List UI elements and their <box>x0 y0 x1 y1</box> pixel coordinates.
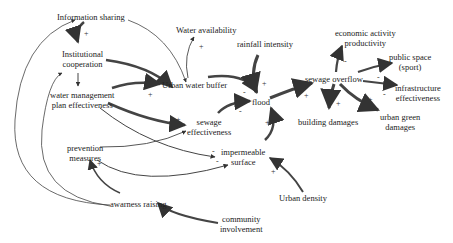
link-uwb-to-wa <box>186 37 194 78</box>
node-flood: flood <box>252 97 270 107</box>
polarity-sign: + <box>271 168 276 176</box>
causal-loop-diagram: Information sharing Institutional cooper… <box>0 0 453 243</box>
node-label: surface <box>221 157 265 167</box>
polarity-sign: + <box>265 119 270 127</box>
polarity-sign: + <box>368 96 373 104</box>
node-label: community <box>220 214 263 224</box>
polarity-sign: - <box>344 58 347 66</box>
link-pm-to-imp <box>97 160 228 176</box>
link-wmp-to-uwb <box>112 83 160 88</box>
link-so-to-eap <box>336 46 342 72</box>
node-label: cooperation <box>62 59 103 69</box>
node-label: Institutional <box>62 49 103 59</box>
link-ar-to-info <box>15 20 110 205</box>
node-label: urban green <box>380 112 420 122</box>
node-public-space-sport: public space (sport) <box>389 52 431 72</box>
node-label: effectiveness <box>187 127 231 137</box>
node-urban-water-buffer: Urban water buffer <box>162 80 227 90</box>
polarity-sign: + <box>336 100 341 108</box>
link-so-to-bd <box>329 84 334 108</box>
node-sewage-effectiveness: sewage effectiveness <box>187 117 231 137</box>
polarity-sign: - <box>212 148 215 156</box>
node-label: rainfall intensity <box>237 39 293 49</box>
node-label: water management <box>50 90 114 100</box>
node-label: Urban density <box>279 193 327 203</box>
polarity-sign: - <box>243 89 246 97</box>
node-infrastructure-effectiveness: infrastructure effectiveness <box>395 83 441 103</box>
node-label: prevention <box>67 143 103 153</box>
node-institutional-cooperation: Institutional cooperation <box>62 49 103 69</box>
node-label: Information sharing <box>57 12 125 22</box>
polarity-sign: - <box>216 158 219 166</box>
node-sewage-overflow: sewage overflow <box>305 74 363 84</box>
node-label: flood <box>252 97 270 107</box>
polarity-sign: - <box>377 74 380 82</box>
node-label: plan effectiveness <box>50 100 114 110</box>
node-label: building damages <box>298 117 358 127</box>
node-economic-activity-productivity: economic activity productivity <box>335 28 396 48</box>
link-se-to-flood <box>218 101 250 113</box>
node-water-management-plan-effectiveness: water management plan effectiveness <box>50 90 114 110</box>
polarity-sign: + <box>97 160 102 168</box>
polarity-sign: + <box>148 91 153 99</box>
node-label: involvement <box>220 224 263 234</box>
link-so-to-ie <box>363 81 397 85</box>
node-label: damages <box>380 122 420 132</box>
polarity-sign: + <box>84 30 89 38</box>
node-label: economic activity <box>335 28 396 38</box>
polarity-sign: - <box>239 108 242 116</box>
link-so-to-ps <box>358 63 392 72</box>
node-label: sewage <box>187 117 231 127</box>
polarity-sign: + <box>304 92 309 100</box>
polarity-sign: - <box>383 91 386 99</box>
link-pm-to-se <box>100 131 186 147</box>
node-awarness-raising: awarness raising <box>110 199 166 209</box>
node-label: Urban water buffer <box>162 80 227 90</box>
node-information-sharing: Information sharing <box>57 12 125 22</box>
node-label: infrastructure <box>395 83 441 93</box>
node-impermeable-surface: impermeable surface <box>221 147 265 167</box>
node-label: public space <box>389 52 431 62</box>
link-info-to-inst <box>77 22 84 42</box>
node-label: productivity <box>335 38 396 48</box>
polarity-sign: + <box>176 116 181 124</box>
link-ci-to-ar <box>158 203 218 223</box>
node-label: awarness raising <box>110 199 166 209</box>
node-building-damages: building damages <box>298 117 358 127</box>
node-urban-green-damages: urban green damages <box>380 112 420 132</box>
node-rainfall-intensity: rainfall intensity <box>237 39 293 49</box>
node-community-involvement: community involvement <box>220 214 263 234</box>
node-label: effectiveness <box>395 93 441 103</box>
node-label: Water availability <box>176 25 236 35</box>
node-label: impermeable <box>221 147 265 157</box>
polarity-sign: + <box>199 43 204 51</box>
node-urban-density: Urban density <box>279 193 327 203</box>
node-label: (sport) <box>389 62 431 72</box>
polarity-sign: + <box>262 80 267 88</box>
node-label: sewage overflow <box>305 74 363 84</box>
node-water-availability: Water availability <box>176 25 236 35</box>
link-rain-to-flood <box>253 55 258 92</box>
